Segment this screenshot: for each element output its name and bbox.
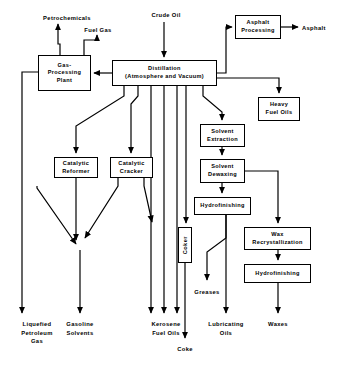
node-solvent-extraction[interactable]: Solvent Extraction <box>200 124 245 147</box>
label-waxes: Waxes <box>258 320 298 329</box>
node-label-hydrofinishing-lube: Hydrofinishing <box>200 202 244 210</box>
edge-cracker-to-gasoline <box>85 178 118 238</box>
label-crude-oil: Crude Oil <box>140 11 192 20</box>
edge-gasplant-to-fuelgas <box>84 35 97 55</box>
node-wax-recrystallization[interactable]: Wax Recrystallization <box>244 227 311 250</box>
edge-gasplant-to-petrochemicals <box>58 24 60 55</box>
node-label-solvent-extraction: Solvent Extraction <box>207 128 238 143</box>
label-gasoline-solvents: Gasoline Solvents <box>54 320 106 337</box>
node-heavy-fuel-oils[interactable]: Heavy Fuel Oils <box>258 97 300 121</box>
node-distillation[interactable]: Distillation (Atmosphere and Vacuum) <box>112 60 217 86</box>
node-label-solvent-dewaxing: Solvent Dewaxing <box>208 163 237 178</box>
node-label-gas-processing-plant: Gas- Processing Plant <box>48 62 82 85</box>
label-kerosene-fuel-oils: Kerosene Fuel Oils <box>140 320 192 337</box>
label-petrochemicals: Petrochemicals <box>31 14 103 23</box>
node-asphalt-processing[interactable]: Asphalt Processing <box>235 15 281 39</box>
edge-distillation-to-heavyfueloils <box>217 78 279 93</box>
edge-distillation-to-cracker <box>131 86 138 153</box>
label-greases: Greases <box>186 288 228 297</box>
label-fuel-gas: Fuel Gas <box>74 26 122 35</box>
label-asphalt: Asphalt <box>302 24 342 33</box>
label-lubricating-oils: Lubricating Oils <box>197 320 255 337</box>
node-coker[interactable]: Coker <box>178 227 192 263</box>
edge-distillation-to-reformer <box>76 86 124 153</box>
node-label-wax-recrystallization: Wax Recrystallization <box>252 231 302 246</box>
node-label-coker: Coker <box>182 236 188 254</box>
node-label-catalytic-cracker: Catalytic Cracker <box>118 160 144 175</box>
refinery-flow-diagram: Gas- Processing Plant Distillation (Atmo… <box>0 0 343 370</box>
node-hydrofinishing-wax[interactable]: Hydrofinishing <box>244 264 311 283</box>
node-label-asphalt-processing: Asphalt Processing <box>241 19 275 34</box>
node-label-heavy-fuel-oils: Heavy Fuel Oils <box>266 101 293 116</box>
edge-distillation-to-asphaltproc <box>217 27 232 73</box>
node-hydrofinishing-lube[interactable]: Hydrofinishing <box>194 197 251 215</box>
edge-distillation-to-solventextraction <box>203 86 222 120</box>
edge-hydrofinishing-to-greases <box>207 215 226 280</box>
edge-gasplant-to-gasoline <box>37 186 76 244</box>
node-gas-processing-plant[interactable]: Gas- Processing Plant <box>38 55 91 91</box>
label-coke: Coke <box>167 345 203 354</box>
edge-gasplant-to-lpg <box>22 72 38 313</box>
node-catalytic-reformer[interactable]: Catalytic Reformer <box>54 157 98 178</box>
node-solvent-dewaxing[interactable]: Solvent Dewaxing <box>200 159 245 183</box>
node-label-hydrofinishing-wax: Hydrofinishing <box>255 270 299 278</box>
node-label-distillation: Distillation (Atmosphere and Vacuum) <box>125 65 204 80</box>
node-label-catalytic-reformer: Catalytic Reformer <box>62 160 90 175</box>
node-catalytic-cracker[interactable]: Catalytic Cracker <box>110 157 153 178</box>
